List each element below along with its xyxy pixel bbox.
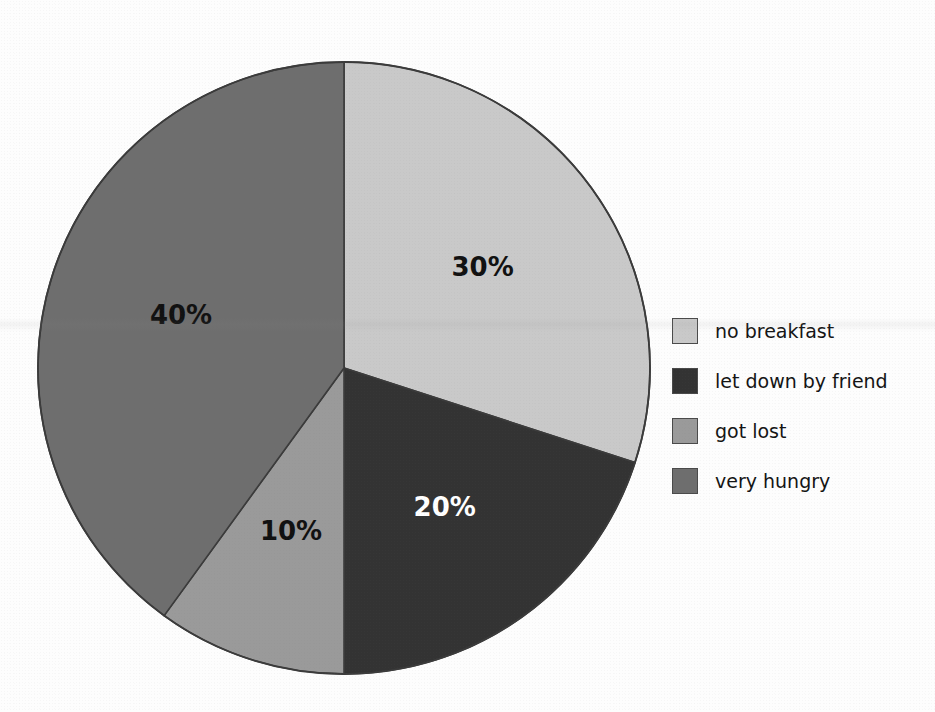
legend-item-label: got lost — [715, 420, 786, 442]
slice-label-got-lost: 10% — [260, 516, 322, 546]
legend-item-very-hungry[interactable]: very hungry — [672, 456, 922, 506]
legend-swatch-icon — [672, 368, 698, 394]
legend-item-label: very hungry — [715, 470, 830, 492]
legend-item-label: let down by friend — [715, 370, 888, 392]
pie-chart-svg: 30% 20% 10% 40% — [0, 0, 700, 712]
legend-swatch-icon — [672, 468, 698, 494]
legend-item-got-lost[interactable]: got lost — [672, 406, 922, 456]
legend-swatch-icon — [672, 318, 698, 344]
legend-swatch-icon — [672, 418, 698, 444]
pie-slices — [38, 62, 650, 674]
chart-legend: no breakfast let down by friend got lost… — [672, 306, 922, 506]
legend-item-let-down-by-friend[interactable]: let down by friend — [672, 356, 922, 406]
slice-label-very-hungry: 40% — [150, 300, 212, 330]
slice-label-no-breakfast: 30% — [451, 252, 513, 282]
pie-chart: 30% 20% 10% 40% — [0, 0, 700, 712]
legend-item-label: no breakfast — [715, 320, 834, 342]
slice-label-let-down-by-friend: 20% — [414, 492, 476, 522]
legend-item-no-breakfast[interactable]: no breakfast — [672, 306, 922, 356]
